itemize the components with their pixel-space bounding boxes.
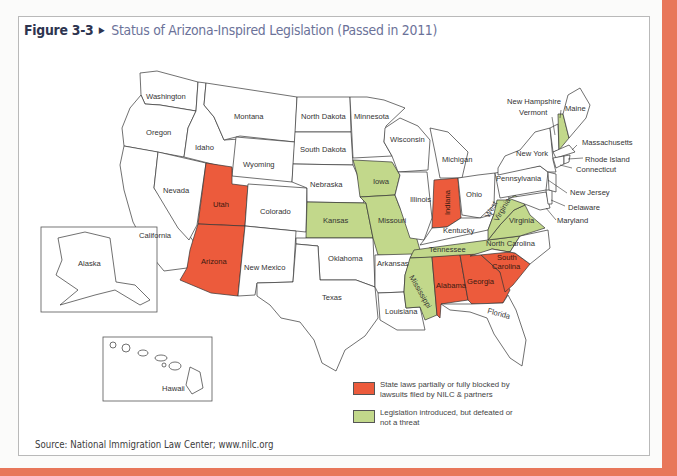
label-alaska: Alaska [78, 259, 102, 268]
label-south-carolina-line1: South [497, 253, 517, 262]
label-indiana: Indiana [443, 189, 452, 215]
label-connecticut: Connecticut [576, 165, 617, 174]
label-maryland: Maryland [557, 216, 588, 225]
legend-item-blocked: State laws partially or fully blocked by… [353, 380, 520, 400]
label-south-dakota: South Dakota [300, 145, 347, 154]
label-pennsylvania: Pennsylvania [496, 174, 542, 183]
label-idaho: Idaho [195, 143, 214, 152]
label-vermont: Vermont [519, 108, 548, 117]
label-new-york: New York [516, 149, 548, 158]
label-texas: Texas [322, 293, 342, 302]
label-kansas: Kansas [323, 216, 349, 225]
label-ohio: Ohio [466, 190, 482, 199]
legend-label-defeated: Legislation introduced, but defeated or … [380, 408, 520, 428]
label-louisiana: Louisiana [385, 307, 418, 316]
state-new-jersey[interactable] [548, 172, 556, 192]
label-georgia: Georgia [467, 277, 495, 286]
label-missouri: Missouri [378, 216, 407, 225]
label-arkansas: Arkansas [377, 259, 409, 268]
swatch-red [353, 382, 375, 395]
label-utah: Utah [213, 200, 229, 209]
state-rhode-island[interactable] [564, 155, 570, 164]
label-north-carolina: North Carolina [486, 239, 536, 248]
state-michigan[interactable] [430, 128, 468, 178]
label-michigan: Michigan [442, 155, 472, 164]
label-illinois: Illinois [410, 195, 431, 204]
label-new-jersey: New Jersey [570, 188, 610, 197]
label-wisconsin: Wisconsin [390, 135, 425, 144]
map-legend: State laws partially or fully blocked by… [353, 380, 520, 436]
label-nevada: Nevada [163, 186, 190, 195]
us-map: Washington Oregon California Nevada Idah… [0, 0, 677, 476]
label-kentucky: Kentucky [443, 226, 474, 235]
label-virginia: Virginia [509, 216, 535, 225]
label-delaware: Delaware [568, 203, 600, 212]
label-new-mexico: New Mexico [244, 263, 285, 272]
label-hawaii: Hawaii [162, 384, 185, 393]
legend-label-blocked: State laws partially or fully blocked by… [380, 380, 520, 400]
label-tennessee: Tennessee [429, 245, 466, 254]
label-new-hampshire: New Hampshire [507, 97, 561, 106]
state-maine[interactable] [563, 88, 590, 138]
label-rhode-island: Rhode Island [585, 155, 630, 164]
label-california: California [139, 231, 172, 240]
label-south-carolina-line2: Carolina [492, 262, 521, 271]
legend-item-defeated: Legislation introduced, but defeated or … [353, 408, 520, 428]
label-maine: Maine [565, 104, 586, 113]
label-washington: Washington [146, 92, 186, 101]
swatch-green [353, 410, 375, 423]
label-nebraska: Nebraska [310, 180, 343, 189]
label-massachusetts: Massachusetts [582, 138, 633, 147]
state-florida[interactable] [441, 295, 526, 366]
label-oregon: Oregon [146, 128, 171, 137]
label-oklahoma: Oklahoma [328, 254, 363, 263]
label-north-dakota: North Dakota [301, 112, 347, 121]
label-colorado: Colorado [260, 207, 291, 216]
label-iowa: Iowa [373, 177, 390, 186]
source-note: Source: National Immigration Law Center;… [35, 438, 273, 450]
label-alabama: Alabama [436, 281, 467, 290]
label-arizona: Arizona [201, 257, 228, 266]
label-wyoming: Wyoming [243, 160, 275, 169]
label-montana: Montana [234, 112, 264, 121]
label-minnesota: Minnesota [354, 112, 390, 121]
